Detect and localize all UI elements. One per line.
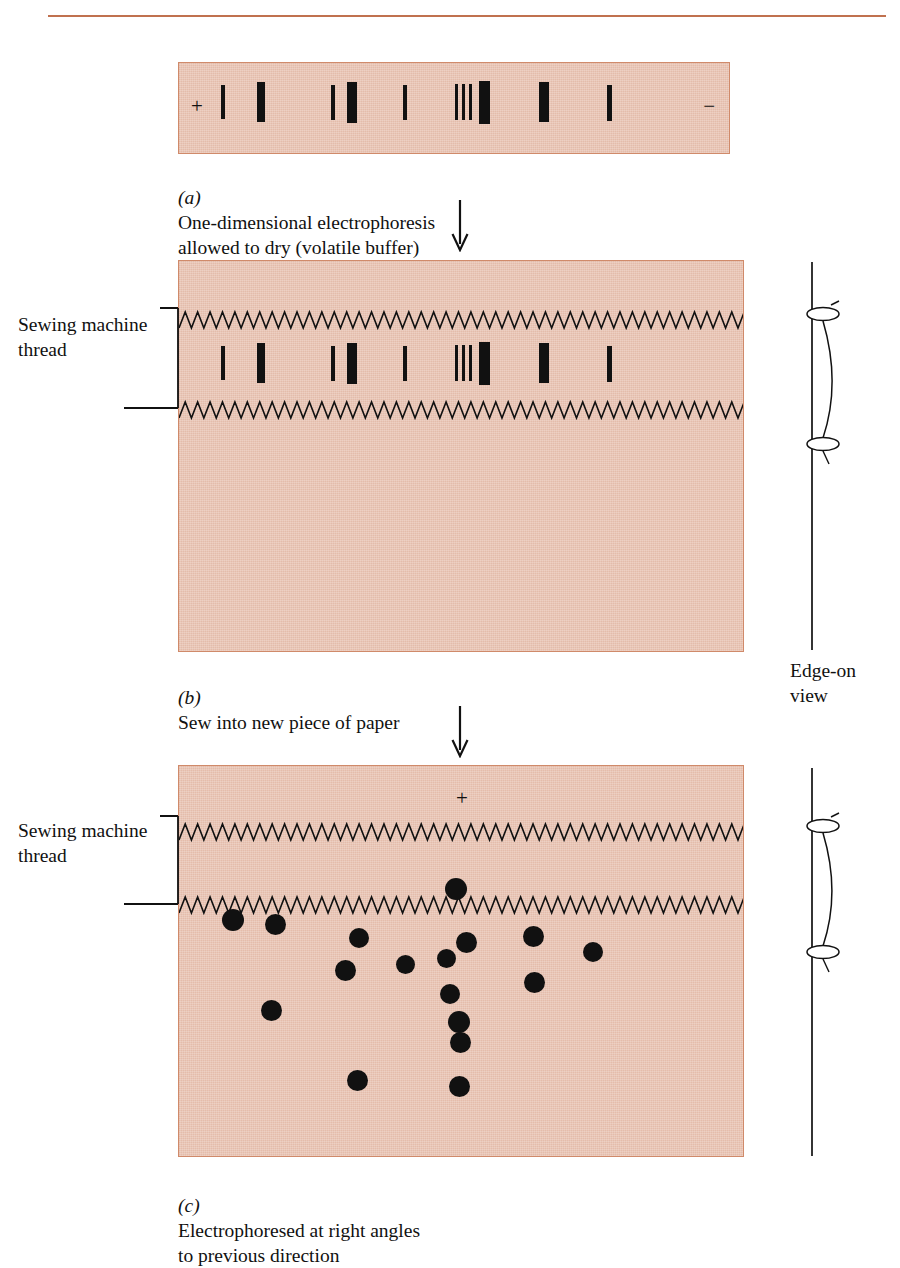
cathode-minus-sign-panel-a: − (703, 96, 715, 117)
electrophoresis-spot (456, 932, 477, 953)
electrophoresis-band (469, 345, 472, 381)
electrophoresis-band (607, 346, 612, 382)
electrophoresis-band (479, 342, 490, 385)
electrophoresis-band (221, 346, 225, 380)
zigzag-stitch-row-upper-panel-c (179, 821, 743, 843)
arrow-a-to-b (449, 200, 471, 252)
electrophoresis-band (403, 85, 407, 120)
anode-plus-sign-panel-a: + (191, 96, 203, 117)
electrophoresis-spot (335, 960, 356, 981)
electrophoresis-spot (261, 1000, 282, 1021)
thread-bracket-panel-c (120, 808, 182, 914)
electrophoresis-spot (349, 928, 369, 948)
electrophoresis-spot (396, 955, 415, 974)
caption-label-c: (c) (178, 1195, 200, 1216)
caption-panel-b: (b) Sew into new piece of paper (178, 660, 399, 735)
electrophoresis-spot (523, 926, 544, 947)
zigzag-stitch-row-lower-panel-b (179, 399, 743, 421)
panel-c-paper-sheet: + (178, 765, 744, 1157)
electrophoresis-band (331, 85, 335, 120)
caption-label-a: (a) (178, 187, 201, 208)
electrophoresis-band (462, 345, 465, 381)
electrophoresis-band (462, 84, 465, 120)
zigzag-stitch-row-upper-panel-b (179, 309, 743, 331)
electrophoresis-spot (450, 1032, 471, 1053)
electrophoresis-spot (449, 1076, 470, 1097)
panel-a-paper-strip: + − (178, 62, 730, 154)
electrophoresis-spot (440, 984, 460, 1004)
electrophoresis-band (347, 343, 357, 384)
arrow-b-to-c (449, 706, 471, 758)
electrophoresis-band (455, 84, 458, 120)
electrophoresis-spot (437, 949, 456, 968)
electrophoresis-band (539, 82, 549, 122)
electrophoresis-band (257, 82, 265, 122)
edge-on-view-caption: Edge-on view (790, 658, 856, 708)
caption-panel-a: (a) One-dimensional electrophoresis allo… (178, 160, 435, 260)
edge-on-view-panel-b (790, 262, 860, 652)
caption-text-b: Sew into new piece of paper (178, 712, 399, 733)
electrophoresis-spot (222, 909, 244, 931)
electrophoresis-spot (347, 1070, 368, 1091)
panel-b-paper-sheet (178, 260, 744, 652)
electrophoresis-spot (524, 972, 545, 993)
electrophoresis-band (347, 82, 357, 123)
electrophoresis-band (221, 85, 225, 119)
electrophoresis-spot (448, 1011, 470, 1033)
electrophoresis-band (257, 343, 265, 383)
top-rule-divider (48, 15, 886, 17)
electrophoresis-band (469, 84, 472, 120)
electrophoresis-band (479, 81, 490, 124)
caption-label-b: (b) (178, 687, 201, 708)
electrophoresis-band (539, 343, 549, 383)
electrophoresis-band (455, 345, 458, 381)
electrophoresis-band (331, 346, 335, 381)
edge-on-view-panel-c (790, 768, 860, 1158)
electrophoresis-spot (583, 942, 603, 962)
electrophoresis-band (607, 85, 612, 121)
electrophoresis-spot (445, 878, 467, 900)
thread-bracket-panel-b (120, 300, 182, 416)
caption-text-c: Electrophoresed at right angles to previ… (178, 1220, 420, 1266)
electrophoresis-spot (265, 914, 286, 935)
caption-panel-c: (c) Electrophoresed at right angles to p… (178, 1168, 420, 1268)
electrophoresis-band (403, 346, 407, 381)
anode-plus-sign-panel-c: + (456, 788, 468, 809)
caption-text-a: One-dimensional electrophoresis allowed … (178, 212, 435, 258)
